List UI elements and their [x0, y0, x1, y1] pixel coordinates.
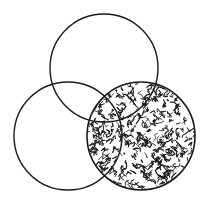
venn-svg — [0, 0, 211, 210]
venn-diagram — [0, 0, 211, 210]
circle-top — [50, 14, 158, 122]
circle-left — [14, 82, 122, 190]
